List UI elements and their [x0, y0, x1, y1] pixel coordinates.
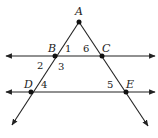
label-a: A	[74, 5, 83, 18]
angle-6: 6	[83, 43, 89, 54]
geometry-diagram: A B C D E 1 6 2 3 4 5	[0, 0, 158, 138]
label-e: E	[125, 78, 134, 91]
label-d: D	[23, 78, 33, 91]
angle-1: 1	[65, 43, 71, 54]
ray-ace	[79, 22, 148, 126]
angle-3: 3	[58, 61, 64, 72]
label-c: C	[102, 42, 111, 55]
ray-abd	[12, 22, 79, 125]
angle-5: 5	[107, 79, 113, 90]
point-a	[77, 20, 82, 25]
angle-4: 4	[41, 79, 47, 90]
label-b: B	[47, 42, 56, 55]
angle-2: 2	[37, 60, 43, 71]
